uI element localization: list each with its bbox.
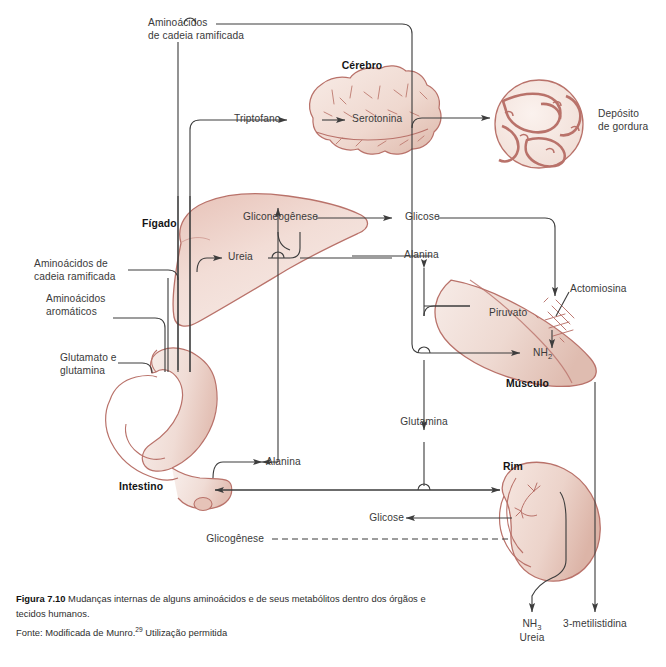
label-branched-chain-amino-acids-left: Aminoácidos de cadeia ramificada <box>34 258 116 283</box>
metabolism-flow-diagram <box>0 0 666 667</box>
leader-actomyosin <box>556 292 569 316</box>
label-glucose-kidney: Glicose <box>369 512 404 525</box>
figure-source: Fonte: Modificada de Munro.29 Utilização… <box>16 623 436 641</box>
kidney-illustration <box>500 462 601 581</box>
label-muscle: Músculo <box>506 378 549 391</box>
label-brain: Cérebro <box>342 60 383 73</box>
label-alanine-right: Alanina <box>404 249 439 262</box>
label-tryptophan: Triptofano <box>234 113 281 126</box>
brain-illustration <box>310 66 441 154</box>
label-gluconeogenesis: Gliconeogênese <box>243 211 318 224</box>
label-glucose-liver: Glicose <box>405 211 440 224</box>
label-ammonia-muscle: NH2 <box>533 347 552 364</box>
figure-caption: Figura 7.10 Mudanças internas de alguns … <box>16 592 436 641</box>
flow-gut-to-alanine <box>213 462 262 478</box>
label-pyruvate: Piruvato <box>489 307 527 320</box>
label-glutamate-glutamine: Glutamato e glutamina <box>60 352 117 377</box>
figure-source-ref: 29 <box>135 626 142 633</box>
label-kidney: Rim <box>503 461 523 474</box>
figure-source-prefix: Fonte: Modificada de Munro. <box>16 627 135 638</box>
label-actomyosin: Actomiosina <box>570 283 627 296</box>
label-methylhistidine: 3-metilistidina <box>563 618 627 631</box>
fat-deposit-illustration <box>495 80 583 168</box>
figure-caption-text: Mudanças internas de alguns aminoácidos … <box>16 593 426 619</box>
label-glutamine: Glutamina <box>400 416 447 429</box>
label-urea-liver: Ureia <box>228 251 253 264</box>
leader-bcaa-left <box>128 270 178 280</box>
label-liver: Fígado <box>142 218 177 231</box>
label-urea-output: Ureia <box>520 632 545 645</box>
label-intestine: Intestino <box>119 481 163 494</box>
figure-number: Figura 7.10 <box>16 593 66 604</box>
label-alanine-gut: Alanina <box>266 456 301 469</box>
label-fat-deposit: Depósito de gordura <box>598 108 648 133</box>
leader-glutamate <box>118 363 152 373</box>
figure-container: Aminoácidos de cadeia ramificada Cérebro… <box>0 0 666 667</box>
label-branched-chain-amino-acids-top: Aminoácidos de cadeia ramificada <box>148 17 244 42</box>
label-glycogenesis: Glicogênese <box>206 533 264 546</box>
label-aromatic-amino-acids: Aminoácidos aromáticos <box>46 293 105 318</box>
figure-source-suffix: Utilização permitida <box>143 627 227 638</box>
label-serotonin: Serotonina <box>352 113 402 126</box>
